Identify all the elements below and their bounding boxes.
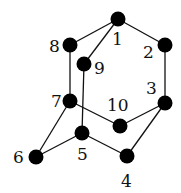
edge-5-4 bbox=[82, 133, 127, 156]
node-7 bbox=[63, 94, 78, 109]
node-label-7: 7 bbox=[51, 91, 62, 111]
node-label-9: 9 bbox=[94, 58, 105, 78]
node-label-4: 4 bbox=[121, 171, 132, 191]
node-8 bbox=[63, 38, 78, 53]
node-label-3: 3 bbox=[146, 78, 157, 98]
node-10 bbox=[113, 119, 128, 134]
node-label-5: 5 bbox=[77, 144, 88, 164]
node-3 bbox=[158, 96, 173, 111]
node-label-2: 2 bbox=[143, 42, 154, 62]
node-6 bbox=[29, 150, 44, 165]
node-5 bbox=[75, 126, 90, 141]
node-4 bbox=[120, 149, 135, 164]
node-label-1: 1 bbox=[112, 29, 123, 49]
edge-3-4 bbox=[127, 103, 165, 156]
node-label-6: 6 bbox=[13, 147, 24, 167]
node-2 bbox=[158, 38, 173, 53]
graph-labels: 12345678910 bbox=[13, 29, 157, 191]
edge-1-8 bbox=[70, 19, 118, 45]
node-9 bbox=[77, 57, 92, 72]
edge-9-5 bbox=[82, 64, 84, 133]
graph-diagram: 12345678910 bbox=[0, 0, 181, 193]
node-1 bbox=[111, 12, 126, 27]
node-label-8: 8 bbox=[49, 36, 60, 56]
node-label-10: 10 bbox=[107, 95, 129, 115]
edge-1-2 bbox=[118, 19, 165, 45]
